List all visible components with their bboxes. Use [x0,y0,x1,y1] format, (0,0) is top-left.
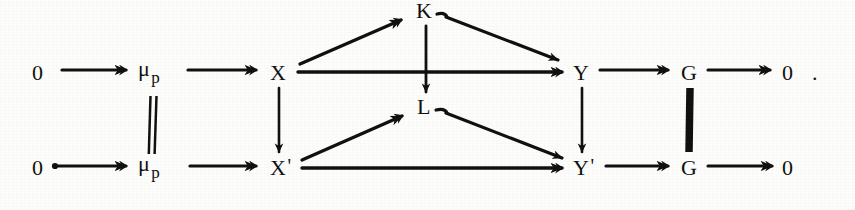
node-g-top: G [681,62,697,84]
mu-symbol-top: μ [138,56,150,81]
edge-l-to-yprime [436,109,562,158]
node-y-prime: Y' [573,157,594,179]
mu-subscript-top: p [151,68,160,87]
node-x-prime: X' [270,157,291,179]
mu-symbol-bottom: μ [138,151,150,176]
y-prime-base: Y [573,155,589,180]
node-g-bottom: G [681,157,697,179]
sentence-period: . [812,62,818,84]
node-zero-bottom-left: 0 [32,157,44,179]
node-y-top: Y [573,62,589,84]
edge-mu-equality-bar [149,96,157,154]
y-prime-mark: ' [590,155,594,177]
node-mu-p-bottom: μp [138,153,159,175]
edge-x-to-k [300,20,401,64]
x-prime-base: X [270,155,286,180]
edge-xprime-to-l [302,116,402,160]
x-prime-mark: ' [287,155,291,177]
node-zero-bottom-right: 0 [782,157,794,179]
node-l: L [417,96,431,118]
diagram-canvas: 0 μp X K L Y G 0 . 0 μp X' Y' G 0 [0,0,855,210]
node-mu-p-top: μp [138,58,159,80]
edge-zero-to-mu-bottom [52,163,126,169]
node-x-top: X [270,62,286,84]
node-k: K [416,0,432,22]
mu-subscript-bottom: p [151,163,160,182]
edge-g-equality-bar [689,88,690,152]
node-zero-top-left: 0 [32,62,44,84]
edge-k-to-y [437,13,558,60]
node-zero-top-right: 0 [782,62,794,84]
